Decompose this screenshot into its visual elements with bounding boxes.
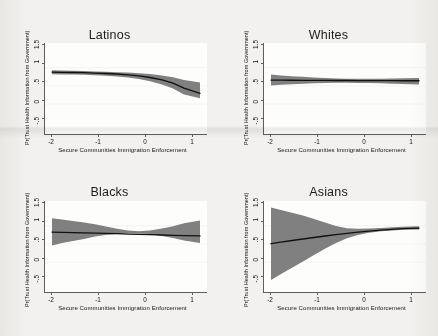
y-axis-label: Pr(Trust Health Information from Governm…: [243, 182, 249, 307]
x-tick-0: 0: [356, 138, 372, 145]
ci-band-blacks: [52, 218, 200, 245]
panel-whites: Whites Pr(Trust Health Information from …: [219, 0, 438, 168]
y-axis-label: Pr(Trust Health Information from Governm…: [24, 182, 30, 307]
y-axis-label: Pr(Trust Health Information from Governm…: [243, 25, 249, 145]
x-tick-neg2: -2: [43, 138, 59, 145]
x-tick-neg1: -1: [90, 296, 106, 303]
panel-grid: Latinos Pr(Trust Health Information from…: [0, 0, 438, 336]
y-tick-neg-0-5: -.5: [252, 117, 259, 124]
y-tick-neg-0-5: -.5: [33, 117, 40, 124]
x-tick-neg1: -1: [309, 138, 325, 145]
y-tick-1-5: 1.5: [33, 40, 40, 49]
x-tick-0: 0: [137, 296, 153, 303]
y-tick-0-5: .5: [252, 79, 259, 84]
y-tick-1-5: 1.5: [33, 198, 40, 207]
y-tick-1: 1: [33, 60, 40, 64]
y-tick-1: 1: [252, 218, 259, 222]
y-tick-0: 0: [252, 258, 259, 262]
y-tick-0-5: .5: [252, 237, 259, 242]
y-tick-0-5: .5: [33, 79, 40, 84]
x-tick-neg2: -2: [43, 296, 59, 303]
plot-area-blacks: [44, 201, 207, 293]
y-tick-1-5: 1.5: [252, 40, 259, 49]
y-tick-1-5: 1.5: [252, 198, 259, 207]
plot-svg-asians: [264, 201, 426, 292]
x-tick-neg2: -2: [262, 138, 278, 145]
x-tick-1: 1: [403, 296, 419, 303]
plot-svg-blacks: [45, 201, 207, 292]
panel-latinos: Latinos Pr(Trust Health Information from…: [0, 0, 219, 168]
plot-area-latinos: [44, 43, 207, 135]
x-axis-label: Secure Communities Immigration Enforceme…: [249, 305, 434, 311]
panel-blacks: Blacks Pr(Trust Health Information from …: [0, 168, 219, 336]
x-axis-label: Secure Communities Immigration Enforceme…: [30, 147, 215, 153]
x-tick-neg1: -1: [90, 138, 106, 145]
panel-title-blacks: Blacks: [0, 185, 219, 199]
x-axis-label: Secure Communities Immigration Enforceme…: [30, 305, 215, 311]
x-tick-neg1: -1: [309, 296, 325, 303]
x-tick-0: 0: [356, 296, 372, 303]
y-tick-0: 0: [252, 100, 259, 104]
plot-svg-latinos: [45, 43, 207, 134]
y-tick-neg-0-5: -.5: [252, 275, 259, 282]
plot-area-whites: [263, 43, 426, 135]
x-tick-0: 0: [137, 138, 153, 145]
prediction-line-whites: [271, 80, 419, 81]
plot-area-asians: [263, 201, 426, 293]
y-tick-0: 0: [33, 258, 40, 262]
x-tick-neg2: -2: [262, 296, 278, 303]
y-axis-label: Pr(Trust Health Information from Governm…: [24, 25, 30, 145]
x-axis-label: Secure Communities Immigration Enforceme…: [249, 147, 434, 153]
y-tick-0-5: .5: [33, 237, 40, 242]
y-tick-1: 1: [252, 60, 259, 64]
panel-title-asians: Asians: [219, 185, 438, 199]
x-tick-1: 1: [184, 138, 200, 145]
panel-asians: Asians Pr(Trust Health Information from …: [219, 168, 438, 336]
y-tick-0: 0: [33, 100, 40, 104]
y-tick-1: 1: [33, 218, 40, 222]
plot-svg-whites: [264, 43, 426, 134]
x-tick-1: 1: [403, 138, 419, 145]
y-tick-neg-0-5: -.5: [33, 275, 40, 282]
x-tick-1: 1: [184, 296, 200, 303]
